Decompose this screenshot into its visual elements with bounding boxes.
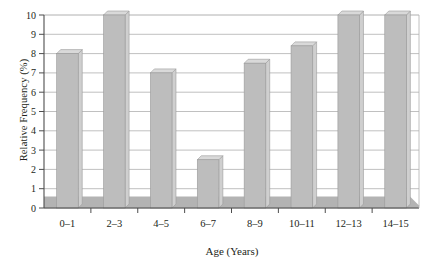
- y-tick-label: 7: [31, 67, 36, 78]
- x-tick-label: 12–13: [336, 218, 362, 229]
- bar: [57, 50, 83, 208]
- x-axis-ticks: 0–12–34–56–78–910–1112–1314–15: [60, 208, 409, 229]
- y-axis-ticks: 012345678910: [26, 10, 44, 214]
- bar: [338, 11, 364, 208]
- bar: [385, 11, 411, 208]
- y-tick-label: 5: [31, 106, 36, 117]
- x-tick-label: 14–15: [382, 218, 408, 229]
- y-tick-label: 3: [31, 145, 36, 156]
- bar-chart: Relative Frequency (%) Age (Years) 01234…: [0, 0, 438, 266]
- bar: [104, 11, 130, 208]
- y-tick-label: 2: [31, 164, 36, 175]
- y-tick-label: 0: [31, 203, 36, 214]
- x-tick-label: 10–11: [289, 218, 315, 229]
- x-tick-label: 8–9: [247, 218, 263, 229]
- bars: [57, 11, 411, 208]
- y-tick-label: 8: [31, 48, 36, 59]
- bar: [197, 156, 223, 208]
- bar: [244, 59, 270, 208]
- plot-area: 012345678910 0–12–34–56–78–910–1112–1314…: [0, 0, 438, 266]
- y-tick-label: 10: [26, 10, 36, 21]
- y-tick-label: 1: [31, 183, 36, 194]
- y-tick-label: 6: [31, 87, 36, 98]
- x-tick-label: 2–3: [106, 218, 122, 229]
- x-tick-label: 6–7: [200, 218, 216, 229]
- y-tick-label: 4: [31, 125, 36, 136]
- y-tick-label: 9: [31, 29, 36, 40]
- x-tick-label: 0–1: [60, 218, 76, 229]
- bar: [291, 42, 317, 208]
- bar: [150, 69, 176, 208]
- x-tick-label: 4–5: [153, 218, 169, 229]
